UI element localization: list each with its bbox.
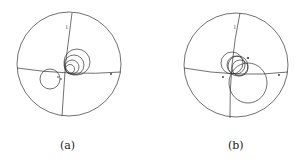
panel-b-plot: [184, 13, 288, 118]
stereonet-diagrams: [0, 0, 302, 165]
panel-a-primitive-circle: [17, 12, 121, 116]
panel-a-points: [57, 73, 112, 80]
caption-a: (a): [60, 139, 75, 152]
panel-a-label-l: l: [66, 24, 68, 30]
panel-a-small-circle-3: [65, 60, 79, 74]
panel-a-plot: [17, 12, 121, 116]
panel-b-primitive-circle: [184, 13, 288, 117]
caption-b: (b): [228, 139, 244, 152]
panel-b-label-l: l: [234, 24, 236, 30]
panel-a-small-circle-4: [66, 65, 75, 74]
figure: l l (a) (b): [0, 0, 302, 165]
panel-b-small-circle-4: [232, 60, 248, 76]
